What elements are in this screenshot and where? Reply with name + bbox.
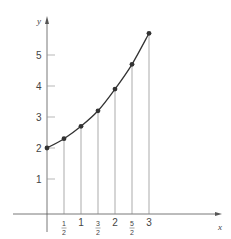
x-axis-label: x xyxy=(217,222,222,232)
data-point xyxy=(62,136,67,141)
y-axis-arrow-icon xyxy=(45,16,49,24)
x-tick-label-numerator: 5 xyxy=(130,220,134,227)
data-point xyxy=(113,87,118,92)
y-tick-label: 4 xyxy=(36,81,42,92)
data-point xyxy=(45,146,50,151)
data-point xyxy=(96,108,101,113)
y-axis-label: y xyxy=(36,16,41,26)
x-tick-label: 1 xyxy=(78,217,84,228)
data-point xyxy=(147,31,152,36)
y-tick-label: 1 xyxy=(36,174,42,185)
x-tick-label-numerator: 3 xyxy=(96,220,100,227)
data-point xyxy=(79,124,84,129)
x-tick-label-numerator: 1 xyxy=(62,220,66,227)
x-axis-arrow-icon xyxy=(215,212,222,216)
y-tick-label: 2 xyxy=(36,143,42,154)
x-tick-label: 3 xyxy=(146,217,152,228)
x-tick-label-denominator: 2 xyxy=(96,229,100,236)
x-tick-label-denominator: 2 xyxy=(130,229,134,236)
chart: xy12345121322523 xyxy=(0,0,231,239)
x-tick-label-denominator: 2 xyxy=(62,229,66,236)
y-tick-label: 5 xyxy=(36,50,42,61)
data-point xyxy=(130,62,135,67)
y-tick-label: 3 xyxy=(36,112,42,123)
x-tick-label: 2 xyxy=(112,217,118,228)
